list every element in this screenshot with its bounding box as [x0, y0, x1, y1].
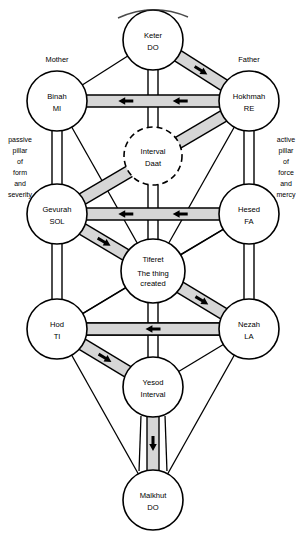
sefira-sub-tiferet-line2: created: [140, 279, 165, 288]
sefira-name-binah: Binah: [47, 92, 66, 101]
sefira-circle-hesed[interactable]: [219, 184, 279, 244]
passive-pillar-label-line-3: form: [13, 169, 27, 176]
sefira-circle-gevurah[interactable]: [27, 184, 87, 244]
sefira-hokhmah[interactable]: HokhmahRE: [219, 71, 279, 131]
sefira-name-tiferet: Tiferet: [142, 255, 164, 264]
active-pillar-label-line-5: mercy: [276, 191, 296, 199]
path-yesod-malkhut: [147, 415, 159, 472]
sefira-circle-hod[interactable]: [27, 299, 87, 359]
sefira-circle-hokhmah[interactable]: [219, 71, 279, 131]
passive-pillar-label-line-2: of: [17, 158, 23, 165]
path-keter-binah: [81, 56, 128, 86]
sefira-name-daat: Interval: [141, 147, 166, 156]
active-pillar-label-line-3: force: [278, 169, 294, 176]
sefira-sub-hesed: FA: [244, 217, 254, 226]
sefira-sub-yesod: Interval: [141, 390, 166, 399]
sefira-name-nezah: Nezah: [238, 320, 260, 329]
path-hod-yesod: [78, 338, 132, 377]
path-hokhmah-hesed: [244, 129, 254, 186]
sefira-yesod[interactable]: YesodInterval: [123, 357, 183, 417]
sefira-gevurah[interactable]: GevurahSOL: [27, 184, 87, 244]
active-pillar-label-line-0: active: [277, 136, 295, 143]
sefira-sub-hod: TI: [54, 332, 61, 341]
path-binah-hokhmah: [85, 95, 221, 107]
sefira-name-yesod: Yesod: [143, 378, 164, 387]
passive-pillar-label-line-5: severity: [8, 191, 33, 199]
sefira-name-malkhut: Malkhut: [140, 491, 167, 500]
passive-pillar-label-line-4: and: [14, 180, 26, 187]
sefira-name-gevurah: Gevurah: [42, 205, 71, 214]
sefira-binah[interactable]: BinahMI: [27, 71, 87, 131]
sefira-circle-keter[interactable]: [123, 10, 183, 70]
mother-label: Mother: [45, 55, 69, 64]
sefira-hod[interactable]: HodTI: [27, 299, 87, 359]
path-gevurah-hesed: [85, 208, 221, 220]
sefira-sub-daat: Daat: [145, 159, 162, 168]
sefira-keter[interactable]: KeterDO: [123, 10, 183, 70]
active-pillar-label-line-4: and: [280, 180, 292, 187]
tree-of-life-diagram: KeterDOBinahMIHokhmahREIntervalDaatGevur…: [0, 0, 306, 536]
sefira-sub-binah: MI: [53, 104, 61, 113]
active-pillar-label: activepillarofforceandmercy: [276, 136, 296, 199]
path-nezah-hod: [85, 323, 221, 335]
active-pillar-label-line-1: pillar: [279, 147, 294, 155]
sefira-sub-malkhut: DO: [147, 503, 158, 512]
sefira-tiferet[interactable]: TiferetThe thingcreated: [121, 239, 185, 303]
sefira-sub-gevurah: SOL: [49, 217, 64, 226]
path-tiferet-nezah: [176, 281, 229, 319]
sefira-circle-malkhut[interactable]: [123, 470, 183, 530]
passive-pillar-label-line-1: pillar: [13, 147, 28, 155]
passive-pillar-label: passivepillarofformandseverity: [8, 136, 33, 199]
path-hesed-nezah: [244, 242, 254, 301]
sefira-hesed[interactable]: HesedFA: [219, 184, 279, 244]
path-keter-hokhmah: [173, 50, 228, 91]
sefira-nezah[interactable]: NezahLA: [219, 299, 279, 359]
sefira-sub-tiferet-line1: The thing: [137, 269, 169, 278]
active-pillar-label-line-2: of: [283, 158, 289, 165]
sefira-name-hesed: Hesed: [238, 205, 260, 214]
sefira-name-hokhmah: Hokhmah: [233, 92, 266, 101]
sefira-sub-hokhmah: RE: [244, 104, 255, 113]
father-label: Father: [238, 55, 260, 64]
sefira-daat[interactable]: IntervalDaat: [124, 127, 182, 185]
path-yesod-malkhut-r: [165, 416, 167, 471]
path-tiferet-hod: [82, 287, 127, 314]
sefira-malkhut[interactable]: MalkhutDO: [123, 470, 183, 530]
path-gevurah-hod: [52, 242, 62, 301]
sefira-sub-nezah: LA: [244, 332, 254, 341]
sefira-circle-binah[interactable]: [27, 71, 87, 131]
passive-pillar-label-line-0: passive: [8, 136, 32, 144]
path-binah-gevurah: [52, 129, 62, 186]
sefira-name-keter: Keter: [144, 31, 163, 40]
path-nezah-yesod: [178, 344, 224, 372]
sefira-circle-yesod[interactable]: [123, 357, 183, 417]
sefira-sub-keter: DO: [147, 43, 158, 52]
sefira-circle-daat[interactable]: [124, 127, 182, 185]
sefira-name-hod: Hod: [50, 320, 64, 329]
path-yesod-malkhut-l: [139, 416, 141, 471]
sefira-circle-nezah[interactable]: [219, 299, 279, 359]
path-gevurah-tiferet: [78, 223, 130, 261]
diagram-canvas: KeterDOBinahMIHokhmahREIntervalDaatGevur…: [0, 0, 306, 536]
